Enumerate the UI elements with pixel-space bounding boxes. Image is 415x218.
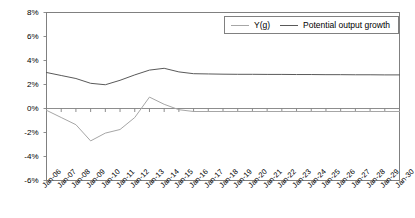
y-axis-tick-label: 6%: [11, 32, 39, 41]
legend-item-potential-output-growth: Potential output growth: [280, 20, 390, 30]
legend-label-potential-output-growth: Potential output growth: [303, 20, 390, 30]
y-axis-tick-label: 2%: [11, 80, 39, 89]
plot-border: [47, 13, 400, 181]
y-axis-tick-label: 4%: [11, 56, 39, 65]
chart-legend: Y(g) Potential output growth: [224, 16, 399, 34]
legend-label-yg: Y(g): [254, 20, 270, 30]
y-axis-tick-label: -4%: [11, 152, 39, 161]
y-axis-tick-label: 8%: [11, 8, 39, 17]
legend-line-icon-yg: [231, 25, 249, 26]
legend-line-icon-potential: [280, 25, 298, 26]
legend-item-yg: Y(g): [231, 20, 270, 30]
line-chart: 8%6%4%2%0%-2%-4%-6% Jan-06Jan-07Jan-08Ja…: [0, 0, 415, 218]
y-axis-tick-label: -6%: [11, 176, 39, 185]
y-axis-tick-label: 0%: [11, 104, 39, 113]
y-axis-tick-label: -2%: [11, 128, 39, 137]
